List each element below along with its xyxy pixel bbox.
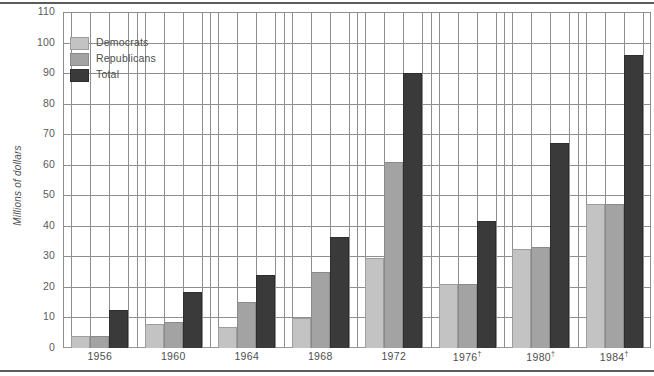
bar-democrats-1976	[439, 284, 458, 348]
gridline-vertical	[218, 12, 219, 348]
x-axis-tick-labels: 195619601964196819721976†1980†1984†	[63, 350, 651, 370]
x-tick-1960: 1960	[137, 350, 211, 362]
bar-total-1960	[183, 292, 202, 349]
x-tick-1968: 1968	[284, 350, 358, 362]
bar-republicans-1964	[237, 302, 256, 348]
gridline-vertical	[210, 12, 211, 348]
bar-total-1980	[550, 143, 569, 348]
gridline-vertical	[237, 12, 238, 348]
bar-democrats-1984	[586, 204, 605, 348]
bar-democrats-1960	[145, 324, 164, 348]
bar-total-1964	[256, 275, 275, 348]
legend-item-democrats: Democrats	[70, 36, 210, 51]
gridline-vertical	[496, 12, 497, 348]
gridline-vertical	[504, 12, 505, 348]
y-tick-60: 60	[43, 158, 55, 170]
y-tick-90: 90	[43, 66, 55, 78]
y-tick-50: 50	[43, 188, 55, 200]
legend-item-total: Total	[70, 68, 210, 83]
gridline-vertical	[643, 12, 644, 348]
chart-legend: Democrats Republicans Total	[70, 36, 210, 84]
y-tick-30: 30	[43, 249, 55, 261]
legend-swatch-total-icon	[70, 69, 89, 82]
x-tick-1956: 1956	[63, 350, 137, 362]
bar-republicans-1984	[605, 204, 624, 348]
legend-swatch-republicans-icon	[70, 53, 89, 66]
legend-label-total: Total	[96, 68, 119, 80]
gridline-vertical	[422, 12, 423, 348]
bottom-rule	[0, 370, 654, 372]
x-tick-1964: 1964	[210, 350, 284, 362]
bar-republicans-1960	[164, 322, 183, 348]
bar-republicans-1972	[384, 162, 403, 348]
bar-republicans-1980	[531, 247, 550, 348]
y-tick-100: 100	[37, 36, 55, 48]
y-axis-tick-labels: 0102030405060708090100110	[0, 12, 55, 348]
legend-label-republicans: Republicans	[96, 52, 156, 64]
x-tick-1980: 1980†	[504, 350, 578, 363]
gridline-vertical	[578, 12, 579, 348]
bar-democrats-1972	[365, 258, 384, 348]
top-rule	[0, 2, 654, 4]
legend-item-republicans: Republicans	[70, 52, 210, 67]
y-tick-20: 20	[43, 280, 55, 292]
y-tick-0: 0	[49, 341, 55, 353]
bar-total-1968	[330, 237, 349, 349]
gridline-vertical	[349, 12, 350, 348]
gridline-vertical	[357, 12, 358, 348]
bar-total-1972	[403, 73, 422, 348]
y-tick-80: 80	[43, 97, 55, 109]
legend-swatch-democrats-icon	[70, 37, 89, 50]
gridline-vertical	[292, 12, 293, 348]
bar-total-1976	[477, 221, 496, 348]
bar-republicans-1968	[311, 272, 330, 348]
x-tick-1976: 1976†	[431, 350, 505, 363]
bar-total-1956	[109, 310, 128, 348]
y-tick-40: 40	[43, 219, 55, 231]
gridline-vertical	[275, 12, 276, 348]
y-tick-70: 70	[43, 127, 55, 139]
y-tick-110: 110	[38, 5, 55, 17]
x-tick-1972: 1972	[357, 350, 431, 362]
gridline-vertical	[431, 12, 432, 348]
x-tick-1984: 1984†	[578, 350, 652, 363]
bar-democrats-1980	[512, 249, 531, 348]
bar-total-1984	[624, 55, 643, 348]
gridline-vertical	[284, 12, 285, 348]
bar-republicans-1976	[458, 284, 477, 348]
bar-democrats-1956	[71, 336, 90, 348]
bar-republicans-1956	[90, 336, 109, 348]
legend-label-democrats: Democrats	[96, 36, 149, 48]
bar-democrats-1964	[218, 327, 237, 348]
bar-democrats-1968	[292, 318, 311, 349]
y-tick-10: 10	[43, 310, 55, 322]
gridline-vertical	[569, 12, 570, 348]
chart-page: Millions of dollars 01020304050607080901…	[0, 0, 654, 376]
